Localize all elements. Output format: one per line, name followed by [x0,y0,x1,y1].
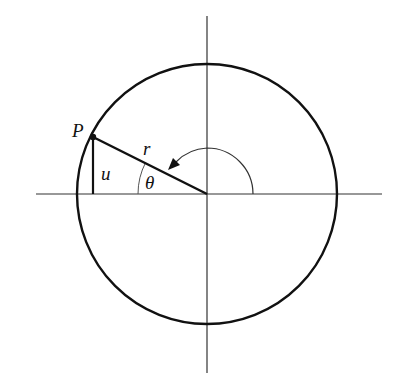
point-P-dot [90,134,96,140]
label-vertical-u: u [101,163,111,184]
label-radius-r: r [143,138,151,159]
rotation-arrow-arc [176,148,253,194]
label-point-P: P [71,120,84,141]
label-angle-theta: θ [145,172,154,193]
polar-unit-circle-diagram: P r u θ [0,0,394,379]
